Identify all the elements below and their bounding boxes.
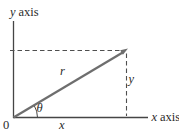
theta-angle-label: θ xyxy=(37,101,43,115)
y-component-label: y xyxy=(127,72,135,86)
x-axis-label-variable: x xyxy=(151,110,158,124)
x-axis-label: xaxis xyxy=(151,110,180,124)
x-component-label: x xyxy=(58,118,65,132)
origin-label: 0 xyxy=(3,118,9,132)
y-axis-label-variable: y xyxy=(8,5,16,19)
vector-r-label: r xyxy=(60,64,65,78)
vector-diagram-figure: yaxis xaxis 0 r θ x y xyxy=(0,0,179,132)
x-axis-label-word: axis xyxy=(160,110,179,124)
y-axis-label: yaxis xyxy=(8,5,39,19)
vector-r-line xyxy=(14,52,124,118)
y-axis-label-word: axis xyxy=(19,5,39,19)
vector-diagram-canvas: yaxis xaxis 0 r θ x y xyxy=(0,0,179,132)
